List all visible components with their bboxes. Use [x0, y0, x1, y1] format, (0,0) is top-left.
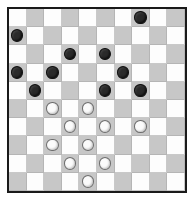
- board-square[interactable]: [9, 173, 27, 191]
- board-square[interactable]: [97, 82, 115, 100]
- black-piece-icon[interactable]: [99, 84, 111, 97]
- black-piece-icon[interactable]: [99, 48, 111, 61]
- board-square[interactable]: [27, 9, 45, 27]
- board-square[interactable]: [27, 82, 45, 100]
- board-square[interactable]: [150, 100, 168, 118]
- board-square[interactable]: [167, 27, 185, 45]
- board-square[interactable]: [62, 27, 80, 45]
- board-square[interactable]: [44, 64, 62, 82]
- board-square[interactable]: [44, 45, 62, 63]
- board-square[interactable]: [62, 64, 80, 82]
- board-square[interactable]: [167, 173, 185, 191]
- board-square[interactable]: [97, 9, 115, 27]
- black-piece-icon[interactable]: [11, 66, 23, 79]
- board-square[interactable]: [167, 45, 185, 63]
- black-piece-icon[interactable]: [117, 66, 129, 79]
- board-square[interactable]: [44, 155, 62, 173]
- board-square[interactable]: [97, 64, 115, 82]
- board-square[interactable]: [132, 118, 150, 136]
- board-square[interactable]: [9, 27, 27, 45]
- board-square[interactable]: [115, 9, 133, 27]
- board-square[interactable]: [27, 155, 45, 173]
- board-square[interactable]: [132, 100, 150, 118]
- board-square[interactable]: [27, 118, 45, 136]
- board-square[interactable]: [9, 9, 27, 27]
- board-square[interactable]: [79, 9, 97, 27]
- board-square[interactable]: [79, 100, 97, 118]
- board-square[interactable]: [44, 136, 62, 154]
- white-piece-icon[interactable]: [99, 120, 111, 133]
- board-square[interactable]: [44, 173, 62, 191]
- board-square[interactable]: [9, 45, 27, 63]
- board-square[interactable]: [79, 27, 97, 45]
- board-square[interactable]: [150, 9, 168, 27]
- board-square[interactable]: [62, 118, 80, 136]
- board-square[interactable]: [62, 136, 80, 154]
- board-square[interactable]: [62, 155, 80, 173]
- board-square[interactable]: [167, 118, 185, 136]
- board-square[interactable]: [79, 64, 97, 82]
- white-piece-icon[interactable]: [46, 102, 58, 115]
- board-square[interactable]: [27, 136, 45, 154]
- board-square[interactable]: [115, 82, 133, 100]
- board-square[interactable]: [167, 100, 185, 118]
- black-piece-icon[interactable]: [29, 84, 41, 97]
- board-square[interactable]: [115, 27, 133, 45]
- board-square[interactable]: [167, 9, 185, 27]
- board-square[interactable]: [44, 27, 62, 45]
- board-square[interactable]: [167, 82, 185, 100]
- board-square[interactable]: [79, 82, 97, 100]
- white-piece-icon[interactable]: [134, 120, 146, 133]
- board-square[interactable]: [97, 100, 115, 118]
- board-square[interactable]: [44, 118, 62, 136]
- black-piece-icon[interactable]: [46, 66, 58, 79]
- board-square[interactable]: [9, 100, 27, 118]
- white-piece-icon[interactable]: [82, 175, 94, 188]
- board-square[interactable]: [97, 173, 115, 191]
- board-square[interactable]: [132, 9, 150, 27]
- board-square[interactable]: [115, 155, 133, 173]
- board-square[interactable]: [62, 173, 80, 191]
- board-square[interactable]: [9, 155, 27, 173]
- board-square[interactable]: [115, 136, 133, 154]
- black-piece-icon[interactable]: [11, 29, 23, 42]
- white-piece-icon[interactable]: [46, 139, 58, 152]
- board-square[interactable]: [79, 155, 97, 173]
- board-square[interactable]: [115, 118, 133, 136]
- board-square[interactable]: [62, 100, 80, 118]
- white-piece-icon[interactable]: [82, 139, 94, 152]
- board-square[interactable]: [150, 64, 168, 82]
- board-square[interactable]: [150, 136, 168, 154]
- board-square[interactable]: [150, 118, 168, 136]
- board-square[interactable]: [62, 45, 80, 63]
- white-piece-icon[interactable]: [64, 120, 76, 133]
- board-square[interactable]: [79, 45, 97, 63]
- board-square[interactable]: [79, 118, 97, 136]
- board-square[interactable]: [132, 64, 150, 82]
- board-square[interactable]: [167, 136, 185, 154]
- white-piece-icon[interactable]: [82, 102, 94, 115]
- board-square[interactable]: [27, 45, 45, 63]
- board-square[interactable]: [9, 118, 27, 136]
- board-square[interactable]: [79, 173, 97, 191]
- board-square[interactable]: [97, 155, 115, 173]
- black-piece-icon[interactable]: [134, 84, 146, 97]
- board-square[interactable]: [150, 155, 168, 173]
- board-square[interactable]: [97, 136, 115, 154]
- board-square[interactable]: [44, 9, 62, 27]
- board-square[interactable]: [44, 100, 62, 118]
- board-square[interactable]: [27, 27, 45, 45]
- board-square[interactable]: [167, 155, 185, 173]
- board-square[interactable]: [9, 136, 27, 154]
- board-square[interactable]: [44, 82, 62, 100]
- white-piece-icon[interactable]: [99, 157, 111, 170]
- board-square[interactable]: [132, 136, 150, 154]
- board-square[interactable]: [97, 118, 115, 136]
- board-square[interactable]: [167, 64, 185, 82]
- board-square[interactable]: [115, 173, 133, 191]
- board-square[interactable]: [132, 82, 150, 100]
- board-square[interactable]: [150, 27, 168, 45]
- board-square[interactable]: [62, 82, 80, 100]
- board-square[interactable]: [62, 9, 80, 27]
- board-grid[interactable]: [9, 9, 185, 191]
